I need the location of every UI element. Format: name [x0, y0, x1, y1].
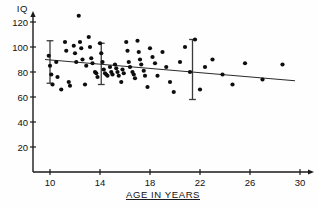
data-point-48	[128, 65, 132, 69]
data-point-61	[153, 61, 157, 65]
data-point-72	[203, 65, 207, 69]
data-point-62	[155, 74, 159, 78]
y-tick-label-60: 60	[17, 92, 28, 103]
data-point-43	[120, 67, 124, 71]
x-tick-label-10: 10	[45, 177, 56, 188]
data-point-50	[132, 72, 136, 76]
data-point-59	[148, 46, 152, 50]
data-point-63	[160, 50, 164, 54]
data-point-44	[122, 71, 126, 75]
data-point-9	[64, 49, 68, 53]
data-point-18	[80, 57, 84, 61]
error-bar-3	[189, 40, 196, 100]
data-point-77	[260, 77, 264, 81]
regression-line	[45, 60, 295, 81]
data-point-12	[72, 44, 76, 48]
data-point-21	[87, 35, 91, 39]
data-point-64	[164, 65, 168, 69]
x-tick-label-30: 30	[295, 177, 306, 188]
data-point-45	[124, 40, 128, 44]
data-point-51	[133, 76, 137, 80]
data-point-73	[210, 57, 214, 61]
x-tick-label-14: 14	[95, 177, 106, 188]
y-tick-label-20: 20	[17, 142, 28, 153]
data-point-6	[55, 75, 59, 79]
regression-line-group	[45, 60, 295, 81]
data-point-60	[150, 55, 154, 59]
data-point-54	[138, 57, 142, 61]
data-points-group	[47, 14, 285, 94]
data-point-57	[143, 74, 147, 78]
data-point-3	[49, 72, 53, 76]
x-axis-title: AGE IN YEARS	[126, 189, 200, 200]
data-point-68	[183, 45, 187, 49]
data-point-71	[198, 87, 202, 91]
scatter-plot-svg: 120 100 80 60 40 20 IQ 10 14 18 22 26 30…	[0, 0, 318, 208]
data-point-78	[280, 62, 284, 66]
y-tick-label-100: 100	[12, 42, 28, 53]
data-point-2	[48, 64, 52, 68]
data-point-16	[78, 40, 82, 44]
data-point-1	[47, 54, 51, 58]
data-point-76	[243, 61, 247, 65]
data-point-75	[230, 82, 234, 86]
x-tick-label-18: 18	[145, 177, 156, 188]
y-axis-title: IQ	[17, 3, 28, 14]
data-point-20	[84, 64, 88, 68]
data-point-5	[54, 60, 58, 64]
chart-figure: 120 100 80 60 40 20 IQ 10 14 18 22 26 30…	[0, 0, 318, 208]
data-point-66	[172, 90, 176, 94]
data-point-46	[125, 49, 129, 53]
data-point-17	[79, 46, 83, 50]
x-tick-label-22: 22	[195, 177, 206, 188]
data-point-53	[137, 50, 141, 54]
data-point-26	[94, 71, 98, 75]
data-point-67	[178, 60, 182, 64]
data-point-74	[220, 72, 224, 76]
data-point-27	[95, 75, 99, 79]
data-point-38	[113, 62, 117, 66]
data-point-30	[100, 60, 104, 64]
data-point-56	[142, 69, 146, 73]
error-bar-1	[47, 41, 54, 84]
data-point-19	[83, 82, 87, 86]
data-point-58	[145, 85, 149, 89]
data-point-37	[110, 72, 114, 76]
data-point-35	[108, 65, 112, 69]
data-point-11	[68, 84, 72, 88]
data-point-55	[139, 62, 143, 66]
y-tick-label-120: 120	[12, 17, 28, 28]
y-axis-arrowhead	[30, 11, 35, 17]
data-point-40	[115, 70, 119, 74]
data-point-14	[74, 60, 78, 64]
data-point-13	[73, 51, 77, 55]
y-tick-label-40: 40	[17, 117, 28, 128]
data-point-70	[193, 37, 197, 41]
data-point-7	[59, 87, 63, 91]
data-point-22	[88, 45, 92, 49]
data-point-42	[119, 80, 123, 84]
data-point-4	[50, 82, 54, 86]
data-point-41	[117, 74, 121, 78]
data-point-29	[99, 51, 103, 55]
data-point-24	[90, 61, 94, 65]
data-point-69	[188, 70, 192, 74]
data-point-28	[98, 41, 102, 45]
data-point-47	[127, 60, 131, 64]
data-point-10	[67, 80, 71, 84]
data-point-31	[102, 67, 106, 71]
data-point-8	[63, 40, 67, 44]
data-point-39	[114, 66, 118, 70]
x-axis-arrowhead	[308, 170, 314, 175]
data-point-34	[105, 74, 109, 78]
y-tick-label-80: 80	[17, 67, 28, 78]
data-point-52	[135, 39, 139, 43]
data-point-23	[89, 56, 93, 60]
data-point-15	[77, 14, 81, 18]
data-point-65	[168, 80, 172, 84]
x-tick-label-26: 26	[245, 177, 256, 188]
